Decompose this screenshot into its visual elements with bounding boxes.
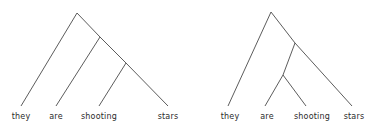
tree-branch: [21, 13, 77, 106]
tree-branch: [265, 75, 283, 106]
tree-branch: [126, 63, 168, 106]
tree-branch: [295, 43, 352, 106]
leaf-label-stars: stars: [158, 112, 179, 122]
leaf-label-they: they: [12, 112, 31, 122]
tree-branch: [100, 37, 126, 63]
left-tree: [21, 13, 168, 106]
right-tree: [228, 12, 352, 106]
leaf-label-shooting: shooting: [81, 112, 117, 122]
tree-branch: [99, 63, 126, 106]
leaf-label-they: they: [221, 112, 240, 122]
tree-branch: [56, 37, 100, 106]
leaf-label-are: are: [49, 112, 63, 122]
tree-branch: [228, 12, 271, 106]
tree-branch: [271, 12, 295, 43]
tree-branch: [77, 13, 100, 37]
tree-branch: [283, 43, 295, 75]
figure-canvas: theyareshootingstarstheyareshootingstars: [0, 0, 375, 132]
edges-layer: [21, 12, 352, 106]
leaf-label-shooting: shooting: [294, 112, 330, 122]
leaf-label-are: are: [260, 112, 274, 122]
leaf-label-stars: stars: [344, 112, 365, 122]
tree-branch: [283, 75, 306, 106]
